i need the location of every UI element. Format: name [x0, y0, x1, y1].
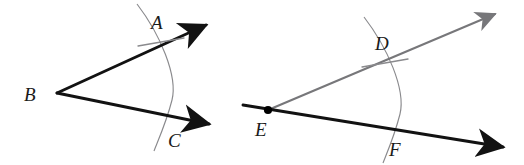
point-label-f: F — [388, 139, 401, 160]
point-label-a: A — [149, 12, 163, 33]
point-label-c: C — [168, 130, 181, 151]
point-label-d: D — [374, 33, 389, 54]
point-label-e: E — [254, 119, 267, 140]
geometry-figure-canvas: A B C D E F — [0, 0, 524, 165]
vertex-dot-e — [264, 106, 272, 114]
point-label-b: B — [24, 84, 36, 105]
